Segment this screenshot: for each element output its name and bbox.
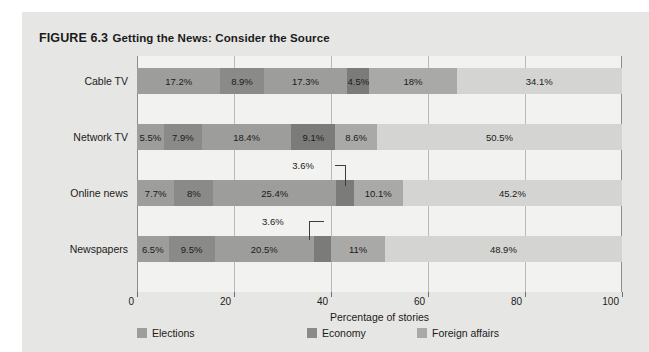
bar-segment-label: 18.4% [233,132,260,143]
figure-title-bar: FIGURE 6.3 Getting the News: Consider th… [39,28,330,46]
axis-tick [525,292,526,297]
legend-label: Elections [152,327,195,339]
bar-segment-label: 4.5% [348,76,370,87]
category-label: Cable TV [84,75,128,87]
bar-segment-label: 48.9% [490,244,517,255]
axis-tick-label: 60 [414,296,425,307]
callout-leader-line [335,165,346,186]
bar-segment-label: 45.2% [499,188,526,199]
bar-segment-label: 9.5% [181,244,203,255]
bar-segment-callout-label: 3.6% [262,216,284,227]
bar-segment-label: 10.1% [365,188,392,199]
bar-segment[interactable]: 34.1% [457,68,622,94]
x-axis-title: Percentage of stories [137,311,622,323]
axis-tick [137,292,138,297]
bar-segment[interactable]: 20.5% [215,236,314,262]
bar-row: Newspapers6.5%9.5%20.5%3.6%3.6%11%48.9% [137,236,622,262]
page-title: Getting the News: Consider the Source [113,32,330,44]
bar-segment[interactable]: 8.6% [335,124,377,150]
bar-segment[interactable]: 48.9% [385,236,622,262]
bar-segment[interactable]: 7.7% [137,180,174,206]
bar-segment-label: 8.6% [345,132,367,143]
bar-row: Network TV5.5%7.9%18.4%9.1%8.6%50.5% [137,124,622,150]
category-label: Network TV [73,131,128,143]
bar-segment[interactable]: 9.1% [291,124,335,150]
bar-segment[interactable]: 3.6%3.6% [336,180,353,206]
axis-tick [234,292,235,297]
bar-segment-label: 9.1% [302,132,324,143]
bar-segment-label: 11% [349,244,367,255]
stacked-bar[interactable]: 7.7%8%25.4%3.6%3.6%10.1%45.2% [137,180,622,206]
bar-segment[interactable]: 4.5% [347,68,369,94]
axis-tick-label: 80 [511,296,522,307]
stacked-bar[interactable]: 5.5%7.9%18.4%9.1%8.6%50.5% [137,124,622,150]
bar-segment[interactable]: 5.5% [137,124,164,150]
axis-tick-label: 0 [128,296,134,307]
bar-segment-label: 7.9% [172,132,194,143]
figure-panel: FIGURE 6.3 Getting the News: Consider th… [22,12,649,352]
bar-segment-label: 20.5% [251,244,278,255]
legend-swatch-icon [137,328,147,338]
bar-segment[interactable]: 17.2% [137,68,220,94]
axis-tick [331,292,332,297]
bar-segment[interactable]: 6.5% [137,236,169,262]
bar-row: Online news7.7%8%25.4%3.6%3.6%10.1%45.2% [137,180,622,206]
bar-segment[interactable]: 7.9% [164,124,202,150]
bar-segment-label: 5.5% [140,132,162,143]
bar-segment-label: 18% [403,76,422,87]
category-label: Online news [70,187,128,199]
bar-segment[interactable]: 18.4% [202,124,291,150]
bar-segment[interactable]: 11% [331,236,384,262]
legend-label: Foreign affairs [432,327,499,339]
bar-segment[interactable]: 50.5% [377,124,622,150]
axis-tick [428,292,429,297]
bar-segment-label: 17.2% [165,76,192,87]
bar-segment[interactable]: 18% [369,68,456,94]
bar-segment-label: 25.4% [261,188,288,199]
figure-number: FIGURE 6.3 [39,31,108,45]
bar-segment-label: 50.5% [486,132,513,143]
bar-segment-label: 6.5% [142,244,164,255]
category-label: Newspapers [70,243,128,255]
legend-swatch-icon [307,328,317,338]
bar-segment[interactable]: 8.9% [220,68,263,94]
legend-item[interactable]: Elections [137,327,195,339]
callout-leader-line [309,221,324,240]
legend-item[interactable]: Foreign affairs [417,327,499,339]
bar-segment[interactable]: 25.4% [213,180,336,206]
bar-segment-label: 7.7% [145,188,167,199]
bar-segment-label: 17.3% [292,76,319,87]
legend-swatch-icon [417,328,427,338]
bar-segment[interactable]: 45.2% [403,180,622,206]
bar-segment-label: 34.1% [526,76,553,87]
axis-tick-label: 20 [220,296,231,307]
axis-tick-label: 40 [317,296,328,307]
bar-segment[interactable]: 10.1% [354,180,403,206]
legend-item[interactable]: Economy [307,327,366,339]
axis-tick-label: 100 [602,296,619,307]
bar-segment[interactable]: 3.6%3.6% [314,236,331,262]
axis-tick [622,292,623,297]
stacked-bar[interactable]: 6.5%9.5%20.5%3.6%3.6%11%48.9% [137,236,622,262]
bar-row: Cable TV17.2%8.9%17.3%4.5%18%34.1% [137,68,622,94]
legend-label: Economy [322,327,366,339]
bar-segment[interactable]: 8% [174,180,213,206]
bar-segment[interactable]: 9.5% [169,236,215,262]
bar-segment[interactable]: 17.3% [264,68,348,94]
bar-segment-callout-label: 3.6% [292,160,314,171]
chart-plot-area: Cable TV17.2%8.9%17.3%4.5%18%34.1%Networ… [137,56,622,292]
bar-segment-label: 8.9% [231,76,253,87]
stacked-bar[interactable]: 17.2%8.9%17.3%4.5%18%34.1% [137,68,622,94]
bar-segment-label: 8% [187,188,201,199]
